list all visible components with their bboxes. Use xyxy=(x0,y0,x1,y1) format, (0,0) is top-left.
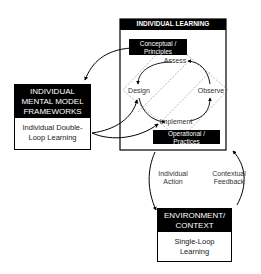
arrow-individual-action xyxy=(149,152,156,210)
individual-action-label: Individual Action xyxy=(158,170,188,186)
single-loop-learning-label: Single-Loop Learning xyxy=(158,232,231,257)
operational-practices-box: Operational / Practices xyxy=(153,130,220,144)
cycle-assess: Assess xyxy=(160,57,190,65)
mental-model-frameworks-box: INDIVIDUAL MENTAL MODEL FRAMEWORKS Indiv… xyxy=(14,84,91,150)
cycle-design: Design xyxy=(124,87,154,95)
double-loop-learning-label: Individual Double-Loop Learning xyxy=(15,118,90,143)
environment-context-box: ENVIRONMENT/ CONTEXT Single-Loop Learnin… xyxy=(157,208,232,262)
conceptual-principles-box: Conceptual / Principles xyxy=(129,39,187,55)
mental-model-frameworks-title: INDIVIDUAL MENTAL MODEL FRAMEWORKS xyxy=(15,85,90,118)
cycle-observe: Observe xyxy=(194,87,228,95)
individual-learning-title: INDIVIDUAL LEARNING xyxy=(120,20,226,28)
environment-context-title: ENVIRONMENT/ CONTEXT xyxy=(158,209,231,232)
contextual-feedback-label: Contextual Feedback xyxy=(212,170,246,186)
cycle-implement: Implement xyxy=(158,118,194,126)
